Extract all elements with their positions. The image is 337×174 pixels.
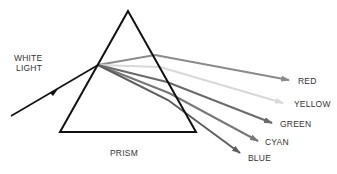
white-light-label-line1: WHITE <box>14 53 42 63</box>
prism-label: PRISM <box>110 148 138 158</box>
yellow-label: YELLOW <box>294 99 331 109</box>
prism-diagram <box>0 0 337 174</box>
green-label: GREEN <box>280 119 311 129</box>
blue-label: BLUE <box>248 153 271 163</box>
ray-blue <box>98 65 240 153</box>
ray-yellow <box>98 65 283 103</box>
cyan-label: CYAN <box>265 137 289 147</box>
red-label: RED <box>298 76 317 86</box>
white-light-label-line2: LIGHT <box>16 63 42 73</box>
